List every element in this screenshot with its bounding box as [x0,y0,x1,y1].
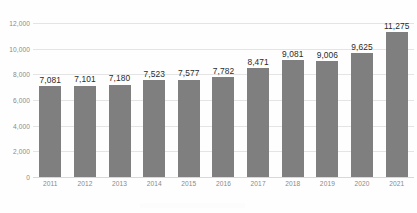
bar[interactable] [351,53,373,177]
x-axis-line [33,177,414,178]
bar-slot: 9,006 [310,23,345,177]
bar-value-label: 9,006 [317,50,338,60]
x-tick-label: 2018 [275,180,310,187]
x-tick-label: 2012 [68,180,103,187]
y-tick-label: 4,000 [0,122,30,129]
bar-slot: 7,577 [172,23,207,177]
y-tick-label: 0 [0,174,30,181]
bar-slot: 7,081 [33,23,68,177]
bar-chart: 12,000 10,000 8,000 6,000 4,000 2,000 0 … [0,0,417,213]
bar[interactable] [109,85,131,177]
bar-value-label: 7,101 [74,74,95,84]
bar-value-label: 7,523 [143,69,164,79]
x-tick-label: 2014 [137,180,172,187]
bar[interactable] [74,86,96,177]
bar-slot: 7,782 [206,23,241,177]
bar-slot: 8,471 [241,23,276,177]
x-tick-label: 2015 [172,180,207,187]
x-axis: 2011 2012 2013 2014 2015 2016 2017 2018 … [33,180,414,194]
x-tick-label: 2021 [379,180,414,187]
x-tick-label: 2011 [33,180,68,187]
bar-slot: 9,081 [275,23,310,177]
x-tick-label: 2019 [310,180,345,187]
bar[interactable] [178,80,200,177]
x-tick-label: 2017 [241,180,276,187]
bars-layer: 7,081 7,101 7,180 7,523 7,577 7,782 8,47… [33,23,414,177]
y-tick-label: 8,000 [0,71,30,78]
bar[interactable] [143,80,165,177]
bar-value-label: 9,081 [282,49,303,59]
y-tick-label: 2,000 [0,148,30,155]
bar-value-label: 7,577 [178,68,199,78]
bar[interactable] [282,60,304,177]
bar-value-label: 7,081 [40,75,61,85]
bar[interactable] [247,68,269,177]
bar[interactable] [316,61,338,177]
bar-value-label: 9,625 [351,42,372,52]
x-tick-label: 2016 [206,180,241,187]
bar[interactable] [386,32,408,177]
y-tick-label: 12,000 [0,20,30,27]
bar-slot: 7,101 [68,23,103,177]
bar[interactable] [212,77,234,177]
y-tick-label: 10,000 [0,45,30,52]
bar-slot: 7,180 [102,23,137,177]
bar-slot: 7,523 [137,23,172,177]
scan-artifact [140,203,245,208]
bar-value-label: 7,180 [109,73,130,83]
bar-value-label: 11,275 [384,21,410,31]
bar-slot: 11,275 [379,23,414,177]
bar[interactable] [39,86,61,177]
bar-value-label: 8,471 [247,57,268,67]
bar-value-label: 7,782 [213,66,234,76]
x-tick-label: 2020 [345,180,380,187]
y-tick-label: 6,000 [0,97,30,104]
y-axis: 12,000 10,000 8,000 6,000 4,000 2,000 0 [0,23,30,177]
bar-slot: 9,625 [345,23,380,177]
x-tick-label: 2013 [102,180,137,187]
